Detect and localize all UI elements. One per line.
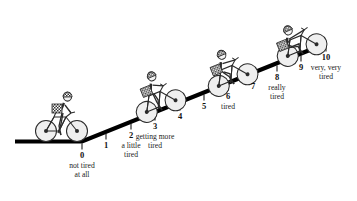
exertion-scale-figure: 0not tired at all12a little tired3gettin… bbox=[0, 0, 357, 201]
scale-number-9: 9 bbox=[299, 63, 303, 72]
scale-number-5: 5 bbox=[202, 102, 206, 111]
scale-number-0: 0 bbox=[80, 151, 84, 160]
cyclist-upright-level bbox=[30, 86, 94, 146]
scale-number-3: 3 bbox=[153, 122, 157, 131]
scale-description-0: not tired at all bbox=[69, 161, 95, 179]
scale-number-2: 2 bbox=[129, 131, 133, 140]
scale-number-8: 8 bbox=[275, 73, 279, 82]
scale-description-3: getting more tired bbox=[136, 132, 175, 150]
scale-number-1: 1 bbox=[104, 141, 108, 150]
scale-number-6: 6 bbox=[226, 92, 230, 101]
scale-number-7: 7 bbox=[251, 82, 255, 91]
scale-description-10: very, very tired bbox=[311, 63, 341, 81]
scale-description-8: really tired bbox=[268, 83, 285, 101]
scale-number-10: 10 bbox=[322, 53, 331, 62]
scale-description-6: tired bbox=[221, 102, 235, 111]
scale-number-4: 4 bbox=[178, 112, 182, 121]
